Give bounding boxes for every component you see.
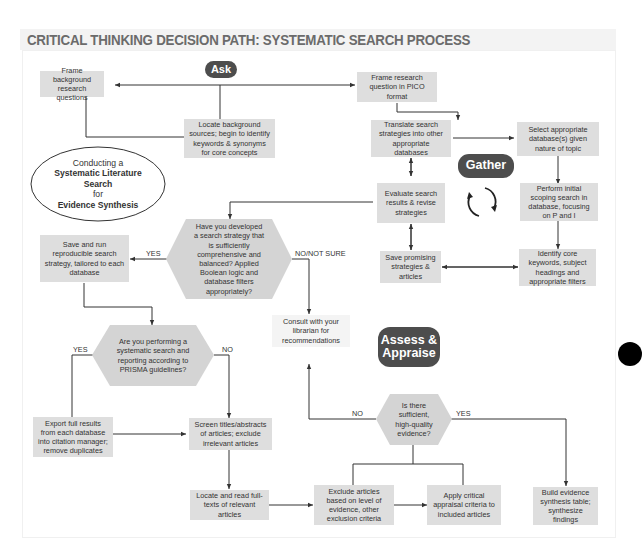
edge-label-strategy-yes: YES — [146, 249, 161, 258]
edge-label-evidence-yes: YES — [456, 409, 471, 418]
phase-assess-line2: Appraise — [382, 347, 436, 360]
edge-label-prisma-yes: YES — [73, 345, 88, 354]
decision-strategy-developed: Have you developed a search strategy tha… — [166, 219, 292, 299]
screen-titles-abstracts-box: Screen titles/abstracts of articles; exc… — [189, 418, 272, 450]
select-databases-box: Select appropriate database(s) given nat… — [517, 122, 599, 156]
phase-ask-badge: Ask — [205, 61, 237, 78]
identify-keywords-box: Identify core keywords, subject headings… — [519, 249, 596, 286]
central-goal-ellipse: Conducting a Systematic Literature Searc… — [30, 146, 166, 222]
save-promising-strategies-box: Save promising strategies & articles — [380, 251, 441, 283]
edge-label-evidence-no: NO — [352, 409, 363, 418]
ellipse-line4: for — [54, 189, 141, 199]
consult-librarian-box: Consult with your librarian for recommen… — [272, 315, 350, 347]
ellipse-line2: Systematic Literature — [54, 168, 141, 178]
exclude-articles-box: Exclude articles based on level of evide… — [314, 485, 394, 525]
frame-background-questions-box: Frame background research questions — [40, 71, 104, 97]
cycle-arrows-icon — [464, 184, 500, 220]
frame-pico-question-box: Frame research question in PICO format — [357, 72, 437, 102]
phase-gather-badge: Gather — [458, 154, 514, 178]
export-results-box: Export full results from each database i… — [33, 417, 113, 457]
ellipse-line3: Search — [54, 179, 141, 189]
apply-appraisal-box: Apply critical appraisal criteria to inc… — [427, 485, 501, 525]
locate-background-sources-box: Locate background sources; begin to iden… — [184, 119, 275, 158]
locate-fulltexts-box: Locate and read full-texts of relevant a… — [190, 490, 269, 520]
black-dot-marker — [618, 342, 642, 366]
edge-label-strategy-no: NO/NOT SURE — [295, 249, 346, 258]
perform-scoping-search-box: Perform initial scoping search in databa… — [520, 183, 598, 221]
decision-prisma: Are you performing a systematic search a… — [92, 325, 214, 386]
build-synthesis-table-box: Build evidence synthesis table; synthesi… — [533, 487, 598, 525]
decision-sufficient-evidence: Is there sufficient, high-quality eviden… — [376, 394, 452, 445]
ellipse-line1: Conducting a — [54, 158, 141, 168]
save-and-run-strategy-box: Save and run reproducible search strateg… — [40, 235, 129, 282]
evaluate-results-box: Evaluate search results & revise strateg… — [377, 183, 445, 223]
decision-strategy-text: Have you developed a search strategy tha… — [193, 222, 265, 296]
ellipse-line5: Evidence Synthesis — [54, 200, 141, 210]
phase-assess-appraise-badge: Assess & Appraise — [378, 327, 440, 367]
edge-label-prisma-no: NO — [222, 345, 233, 354]
translate-strategies-box: Translate search strategies into other a… — [371, 120, 451, 157]
decision-prisma-text: Are you performing a systematic search a… — [112, 337, 194, 374]
decision-evidence-text: Is there sufficient, high-quality eviden… — [392, 401, 436, 438]
